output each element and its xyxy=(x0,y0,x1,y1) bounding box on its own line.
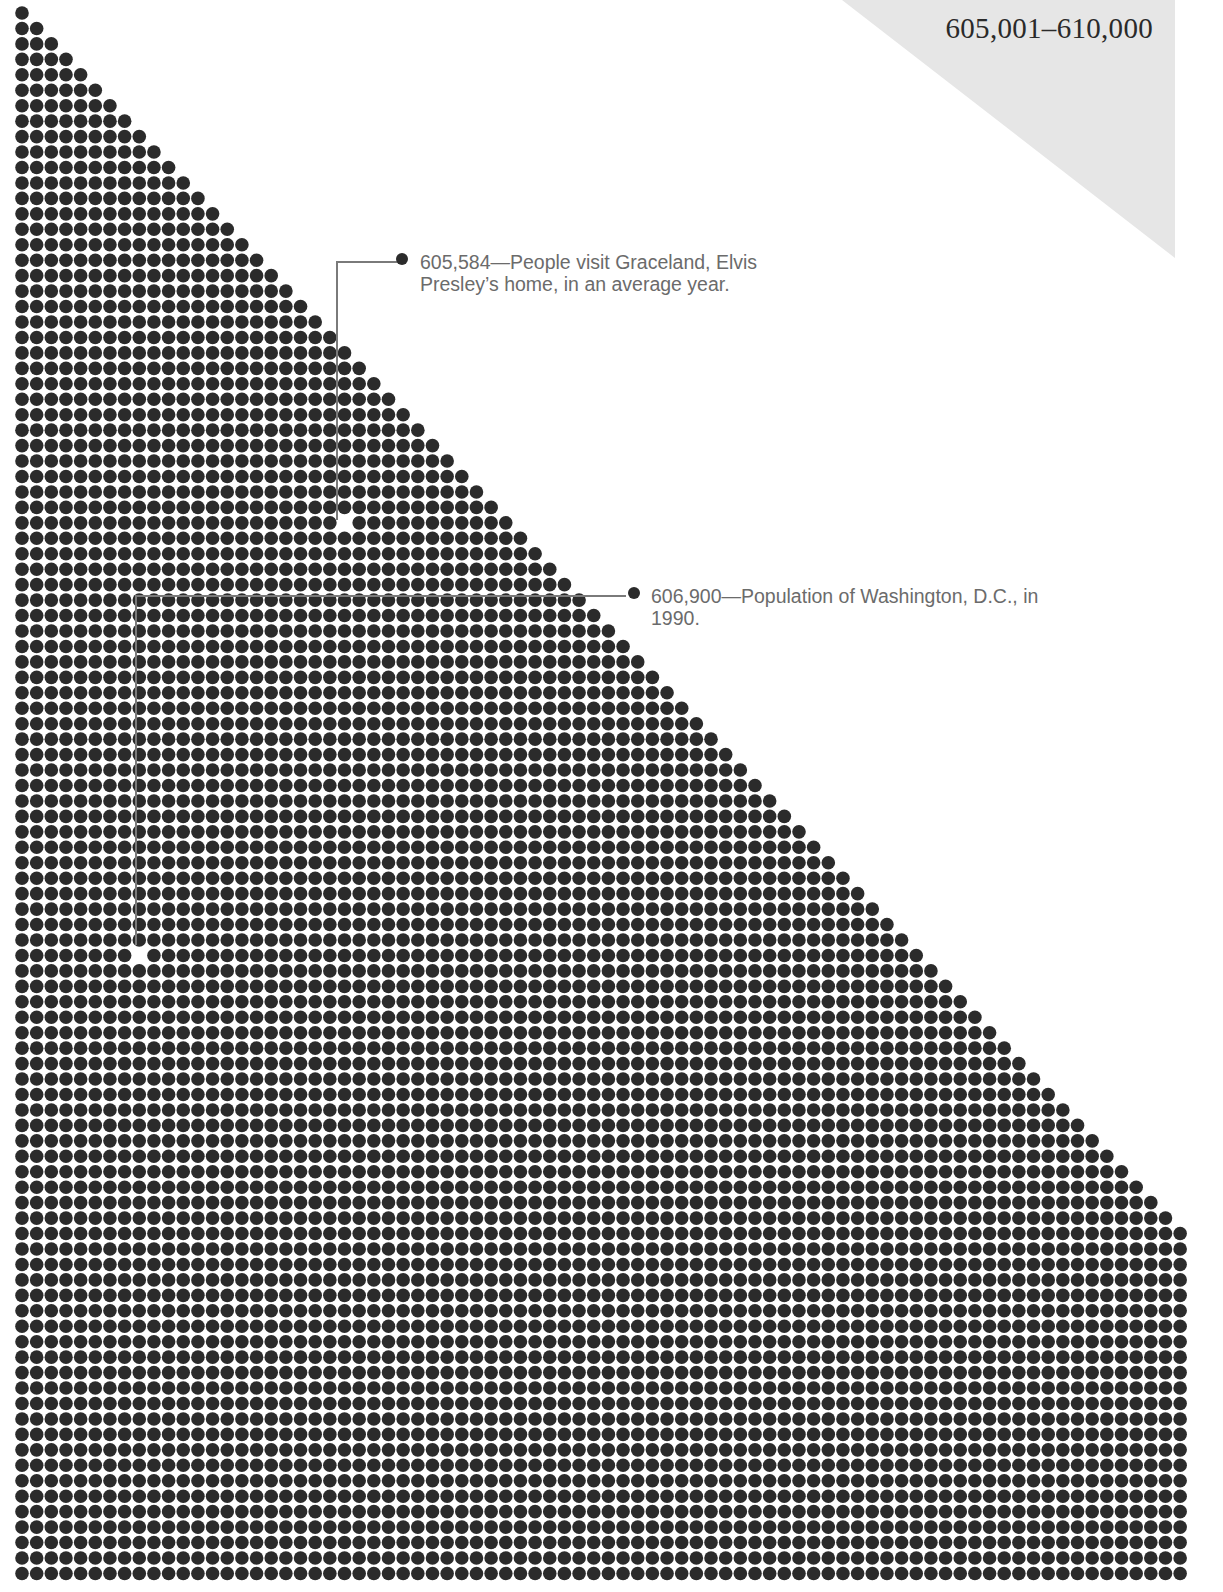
data-dot xyxy=(30,1428,44,1442)
data-dot xyxy=(822,1489,836,1503)
data-dot xyxy=(1056,1211,1070,1225)
data-dot xyxy=(352,377,366,391)
data-dot xyxy=(1129,1350,1143,1364)
data-dot xyxy=(1159,1319,1173,1333)
data-dot xyxy=(382,686,396,700)
data-dot xyxy=(1129,1242,1143,1256)
data-dot xyxy=(264,1474,278,1488)
data-dot xyxy=(1056,1150,1070,1164)
data-dot xyxy=(1129,1227,1143,1241)
data-dot xyxy=(968,1010,982,1024)
data-dot xyxy=(1041,1103,1055,1117)
data-dot xyxy=(206,392,220,406)
data-dot xyxy=(338,655,352,669)
data-dot xyxy=(1159,1273,1173,1287)
data-dot xyxy=(411,964,425,978)
data-dot xyxy=(176,1381,190,1395)
data-dot xyxy=(792,1041,806,1055)
data-dot xyxy=(470,825,484,839)
data-dot xyxy=(220,825,234,839)
data-dot xyxy=(968,1072,982,1086)
data-dot xyxy=(235,300,249,314)
data-dot xyxy=(396,887,410,901)
data-dot xyxy=(778,1520,792,1534)
data-dot xyxy=(616,825,630,839)
data-dot xyxy=(1056,1180,1070,1194)
data-dot xyxy=(162,1273,176,1287)
data-dot xyxy=(558,655,572,669)
data-dot xyxy=(294,1443,308,1457)
data-dot xyxy=(250,1119,264,1133)
data-dot xyxy=(865,1520,879,1534)
data-dot xyxy=(1100,1165,1114,1179)
data-dot xyxy=(1056,1412,1070,1426)
data-dot xyxy=(1115,1567,1129,1581)
data-dot xyxy=(264,1459,278,1473)
data-dot xyxy=(865,1134,879,1148)
data-dot xyxy=(895,1072,909,1086)
data-dot xyxy=(763,1072,777,1086)
data-dot xyxy=(836,1119,850,1133)
data-dot xyxy=(734,1227,748,1241)
data-dot xyxy=(294,1180,308,1194)
data-dot xyxy=(74,331,88,345)
data-dot xyxy=(411,609,425,623)
data-dot xyxy=(206,547,220,561)
data-dot xyxy=(865,1474,879,1488)
data-dot xyxy=(763,1196,777,1210)
data-dot xyxy=(558,624,572,638)
data-dot xyxy=(59,1319,73,1333)
data-dot xyxy=(455,717,469,731)
data-dot xyxy=(1012,1567,1026,1581)
data-dot xyxy=(396,423,410,437)
data-dot xyxy=(763,810,777,824)
data-dot xyxy=(176,1366,190,1380)
data-dot xyxy=(15,949,29,963)
data-dot xyxy=(660,1088,674,1102)
data-dot xyxy=(499,825,513,839)
data-dot xyxy=(660,841,674,855)
data-dot xyxy=(924,1134,938,1148)
data-dot xyxy=(690,1211,704,1225)
data-dot xyxy=(74,1180,88,1194)
data-dot xyxy=(646,1242,660,1256)
data-dot xyxy=(895,1227,909,1241)
data-dot xyxy=(147,964,161,978)
data-dot xyxy=(74,701,88,715)
data-dot xyxy=(294,1304,308,1318)
data-dot xyxy=(646,1443,660,1457)
data-dot xyxy=(763,1026,777,1040)
data-dot xyxy=(74,918,88,932)
data-dot xyxy=(74,1350,88,1364)
data-dot xyxy=(807,1520,821,1534)
data-dot xyxy=(558,732,572,746)
data-dot xyxy=(74,1520,88,1534)
data-dot xyxy=(440,686,454,700)
data-dot xyxy=(147,871,161,885)
data-dot xyxy=(89,1289,103,1303)
data-dot xyxy=(1129,1459,1143,1473)
data-dot xyxy=(59,392,73,406)
data-dot xyxy=(748,1428,762,1442)
data-dot xyxy=(103,501,117,515)
data-dot xyxy=(763,1134,777,1148)
data-dot xyxy=(924,1474,938,1488)
data-dot xyxy=(983,1103,997,1117)
data-dot xyxy=(45,686,59,700)
data-dot xyxy=(45,1258,59,1272)
data-dot xyxy=(382,1119,396,1133)
data-dot xyxy=(264,377,278,391)
data-dot xyxy=(176,1180,190,1194)
data-dot xyxy=(323,609,337,623)
data-dot xyxy=(763,1335,777,1349)
data-dot xyxy=(279,1010,293,1024)
data-dot xyxy=(543,1273,557,1287)
data-dot xyxy=(499,933,513,947)
data-dot xyxy=(103,918,117,932)
data-dot xyxy=(30,825,44,839)
data-dot xyxy=(382,485,396,499)
data-dot xyxy=(352,1273,366,1287)
data-dot xyxy=(206,485,220,499)
data-dot xyxy=(572,825,586,839)
data-dot xyxy=(264,1211,278,1225)
